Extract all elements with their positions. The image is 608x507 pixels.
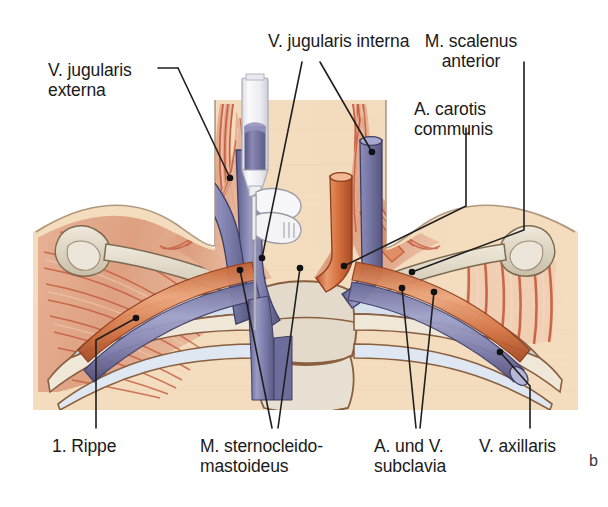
label-v-jugularis-externa: V. jugularisexterna bbox=[48, 60, 132, 101]
label-m-sternocleidomastoideus-line1: M. sternocleido- bbox=[200, 436, 323, 456]
label-m-sternocleidomastoideus-line2: mastoideus bbox=[200, 456, 289, 476]
panel-letter: b bbox=[589, 452, 598, 470]
label-v-jugularis-externa-line1: V. jugularis bbox=[48, 60, 132, 80]
label-a-carotis-communis-line1: A. carotis bbox=[414, 99, 486, 119]
label-v-jugularis-interna: V. jugularis interna bbox=[268, 31, 409, 51]
label-v-axillaris-line1: V. axillaris bbox=[479, 436, 556, 456]
label-m-scalenus-anterior-line1: M. scalenus bbox=[425, 31, 517, 51]
label-a-und-v-subclavia-line2: subclavia bbox=[374, 456, 446, 476]
label-m-scalenus-anterior: M. scalenusanterior bbox=[411, 31, 531, 72]
figure-page: V. jugularisexterna V. jugularis interna… bbox=[0, 0, 608, 507]
label-a-und-v-subclavia-line1: A. und V. bbox=[374, 436, 444, 456]
label-v-axillaris: V. axillaris bbox=[479, 436, 556, 456]
label-v-jugularis-externa-line2: externa bbox=[48, 80, 106, 100]
label-m-sternocleidomastoideus: M. sternocleido-mastoideus bbox=[200, 436, 323, 477]
label-a-carotis-communis: A. carotiscommunis bbox=[414, 99, 493, 140]
label-m-scalenus-anterior-line2: anterior bbox=[442, 51, 501, 71]
label-a-und-v-subclavia: A. und V.subclavia bbox=[374, 436, 446, 477]
label-a-carotis-communis-line2: communis bbox=[414, 119, 493, 139]
label-1-rippe-line1: 1. Rippe bbox=[52, 436, 116, 456]
label-v-jugularis-interna-line1: V. jugularis interna bbox=[268, 31, 409, 51]
label-1-rippe: 1. Rippe bbox=[52, 436, 116, 456]
hand-fingers bbox=[252, 189, 301, 244]
